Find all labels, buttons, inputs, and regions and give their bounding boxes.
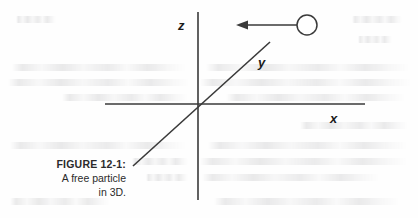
y-axis-label: y xyxy=(258,56,265,69)
figure-caption-line-2: in 3D. xyxy=(14,185,126,199)
figure-caption-line-1: A free particle xyxy=(14,171,126,185)
velocity-arrow-head xyxy=(236,21,248,30)
free-particle-circle xyxy=(297,15,317,35)
x-axis-label: x xyxy=(330,112,337,125)
figure-caption: FIGURE 12-1: A free particle in 3D. xyxy=(14,157,126,199)
figure-caption-title: FIGURE 12-1: xyxy=(14,157,126,171)
z-axis-label: z xyxy=(178,19,185,32)
figure-page: z y x FIGURE 12-1: A free particle in 3D… xyxy=(0,0,418,218)
